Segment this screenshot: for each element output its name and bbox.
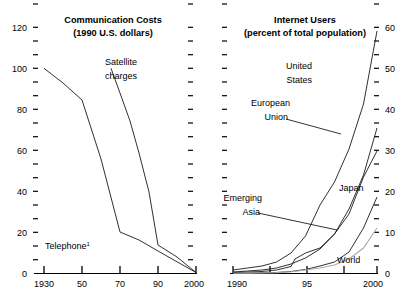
left-panel: Communication Costs (1990 U.S. dollars) … xyxy=(12,4,204,289)
left-panel-subtitle: (1990 U.S. dollars) xyxy=(73,28,153,38)
right-ytick-20: 20 xyxy=(385,187,395,197)
series-label-world: World xyxy=(337,255,360,265)
series-label-united: United xyxy=(286,61,312,71)
right-ytick-30: 30 xyxy=(385,146,395,156)
series-label-union: Union xyxy=(264,112,288,122)
left-ytick-100: 100 xyxy=(12,64,27,74)
leader-european-union xyxy=(286,119,341,134)
series-label-states: States xyxy=(286,75,312,85)
two-panel-chart-figure: Communication Costs (1990 U.S. dollars) … xyxy=(0,0,406,297)
telephone-footnote-marker: 1 xyxy=(87,241,91,247)
left-ytick-0: 0 xyxy=(22,269,27,279)
series-label-satellite-1: Satellite xyxy=(105,57,137,67)
right-panel-left-ticks xyxy=(222,4,227,260)
series-label-emerging: Emerging xyxy=(223,193,262,203)
right-ytick-0: 0 xyxy=(385,269,390,279)
right-ytick-50: 50 xyxy=(385,64,395,74)
left-panel-left-ticks xyxy=(33,4,38,260)
right-xtick-95: 95 xyxy=(302,279,312,289)
right-ytick-10: 10 xyxy=(385,228,395,238)
right-ytick-60: 60 xyxy=(385,23,395,33)
right-panel-title: Internet Users xyxy=(274,15,336,25)
series-label-japan: Japan xyxy=(339,183,364,193)
left-ytick-120: 120 xyxy=(12,23,27,33)
series-satellite-line xyxy=(111,68,196,272)
left-xtick-50: 50 xyxy=(77,279,87,289)
left-ytick-80: 80 xyxy=(17,105,27,115)
right-panel: Internet Users (percent of total populat… xyxy=(222,4,395,289)
series-label-telephone: Telephone1 xyxy=(45,241,91,252)
left-xtick-90: 90 xyxy=(153,279,163,289)
right-panel-subtitle: (percent of total population) xyxy=(244,28,366,38)
left-xtick-1930: 1930 xyxy=(34,279,54,289)
right-xtick-2000: 2000 xyxy=(363,279,383,289)
left-panel-title: Communication Costs xyxy=(64,15,162,25)
series-world-line xyxy=(233,228,377,273)
left-ytick-40: 40 xyxy=(17,187,27,197)
left-panel-right-ticks xyxy=(188,4,193,260)
telephone-text: Telephone xyxy=(45,241,87,251)
left-xtick-2000: 2000 xyxy=(184,279,204,289)
left-x-ticks xyxy=(44,266,196,274)
left-ytick-60: 60 xyxy=(17,146,27,156)
series-label-european: European xyxy=(251,98,290,108)
left-xtick-70: 70 xyxy=(115,279,125,289)
right-ytick-40: 40 xyxy=(385,105,395,115)
series-label-asia: Asia xyxy=(242,207,260,217)
left-ytick-20: 20 xyxy=(17,228,27,238)
series-label-satellite-2: charges xyxy=(105,71,138,81)
right-xtick-1990: 1990 xyxy=(227,279,247,289)
leader-emerging-asia xyxy=(258,213,337,230)
